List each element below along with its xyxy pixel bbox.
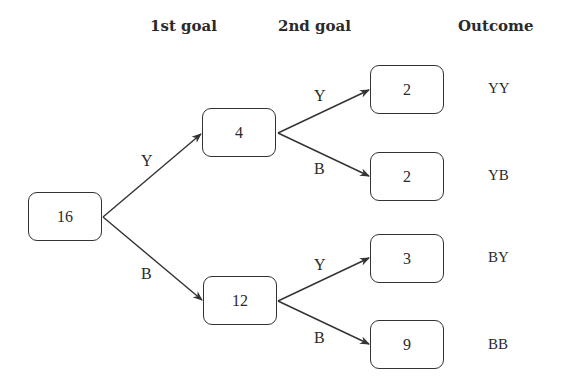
label-b-b: B (314, 329, 325, 347)
label-root-y: Y (141, 152, 153, 170)
node-yy-value: 2 (403, 81, 411, 99)
node-root-value: 16 (57, 208, 73, 226)
label-b-y: Y (314, 256, 326, 274)
node-bb: 9 (370, 320, 444, 369)
node-by: 3 (370, 234, 444, 283)
node-yb-value: 2 (403, 168, 411, 186)
node-yy: 2 (370, 65, 444, 114)
node-b: 12 (203, 276, 277, 325)
node-y-value: 4 (235, 124, 243, 142)
node-y: 4 (202, 108, 276, 157)
node-b-value: 12 (232, 292, 248, 310)
edge-root-y (103, 134, 201, 217)
label-root-b: B (141, 265, 152, 283)
outcome-yy: YY (488, 80, 510, 97)
node-bb-value: 9 (403, 336, 411, 354)
label-y-b: B (314, 160, 325, 178)
node-root: 16 (28, 192, 102, 241)
node-yb: 2 (370, 152, 444, 201)
node-by-value: 3 (403, 250, 411, 268)
outcome-bb: BB (488, 336, 508, 353)
outcome-by: BY (488, 249, 509, 266)
label-y-y: Y (314, 87, 326, 105)
outcome-yb: YB (488, 167, 509, 184)
edge-root-b (103, 217, 202, 300)
